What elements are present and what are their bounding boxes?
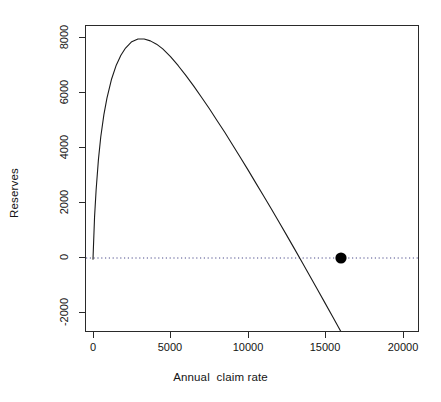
y-tick-label-6000: 6000	[58, 64, 70, 120]
x-tick-label-10000: 10000	[218, 341, 278, 353]
y-tick-label-8000: 8000	[58, 9, 70, 65]
y-axis-title: Reserves	[8, 143, 20, 243]
y-tick-label-2000: 2000	[58, 174, 70, 230]
break-even-point-marker	[335, 252, 346, 263]
y-axis	[79, 37, 86, 313]
x-tick-label-0: 0	[63, 341, 123, 353]
x-axis	[93, 332, 404, 339]
x-tick-label-20000: 20000	[373, 341, 433, 353]
x-tick-label-15000: 15000	[295, 341, 355, 353]
x-axis-title: Annual claim rate	[0, 371, 441, 383]
y-tick-label-0: 0	[58, 229, 70, 285]
y-tick-label-4000: 4000	[58, 119, 70, 175]
reserves-curve	[93, 39, 372, 388]
plot-box-frame	[86, 26, 419, 332]
y-tick-label-minus2000: -2000	[58, 284, 70, 340]
chart-figure: 0 5000 10000 15000 20000 8000 6000 4000 …	[0, 0, 441, 402]
x-tick-label-5000: 5000	[140, 341, 200, 353]
